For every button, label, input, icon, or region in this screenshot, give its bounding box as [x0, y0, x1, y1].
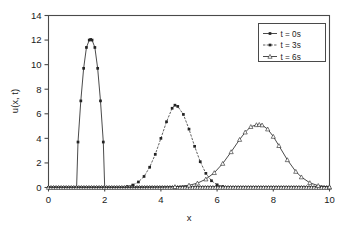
data-marker: [165, 120, 168, 123]
x-tick-label: 2: [102, 194, 107, 205]
data-marker: [182, 113, 185, 116]
data-marker: [174, 104, 177, 107]
y-tick-label: 6: [36, 108, 41, 119]
y-tick-label: 8: [36, 84, 41, 95]
x-axis-label: x: [187, 212, 192, 223]
data-marker: [94, 46, 97, 49]
legend: t = 0st = 3st = 6s: [259, 24, 326, 62]
data-marker: [269, 44, 272, 47]
y-axis: 02468101214: [31, 10, 49, 193]
y-tick-label: 14: [31, 10, 42, 21]
y-tick-label: 10: [31, 59, 42, 70]
series-3: [46, 122, 331, 189]
data-marker: [199, 160, 202, 163]
y-tick-label: 12: [31, 34, 42, 45]
legend-label-3: t = 6s: [281, 53, 301, 62]
data-marker: [188, 128, 191, 131]
data-marker: [205, 172, 208, 175]
x-tick-label: 4: [158, 194, 163, 205]
data-marker: [277, 144, 281, 148]
data-marker: [171, 107, 174, 110]
legend-label-2: t = 3s: [281, 41, 301, 50]
legend-label-1: t = 0s: [281, 30, 301, 39]
data-marker: [193, 145, 196, 148]
data-marker: [176, 105, 179, 108]
data-marker: [285, 158, 289, 162]
y-axis-label: u(x, t): [9, 89, 20, 113]
data-marker: [160, 137, 163, 140]
data-marker: [77, 141, 80, 144]
x-tick-label: 8: [271, 194, 276, 205]
data-marker: [79, 100, 82, 103]
data-marker: [148, 166, 151, 169]
data-marker: [154, 153, 157, 156]
data-marker: [102, 141, 105, 144]
data-marker: [137, 181, 140, 184]
data-marker: [91, 39, 94, 42]
x-tick-label: 6: [214, 194, 219, 205]
series-line: [49, 105, 330, 187]
data-marker: [96, 67, 99, 70]
y-tick-label: 4: [36, 133, 41, 144]
chart-figure: 02468101214 0246810 x u(x, t) t = 0st = …: [0, 0, 351, 233]
data-marker: [85, 46, 88, 49]
data-marker: [99, 100, 102, 103]
data-marker: [210, 179, 213, 182]
series-2: [47, 104, 330, 189]
series-line: [49, 125, 330, 188]
data-marker: [143, 175, 146, 178]
data-marker: [195, 181, 199, 185]
y-tick-label: 2: [36, 157, 41, 168]
chart-canvas: 02468101214 0246810 x u(x, t) t = 0st = …: [0, 0, 351, 233]
x-axis: 0246810: [46, 188, 335, 205]
data-marker: [82, 67, 85, 70]
y-tick-label: 0: [36, 182, 41, 193]
x-tick-label: 10: [324, 194, 335, 205]
x-tick-label: 0: [46, 194, 51, 205]
data-marker: [269, 32, 272, 35]
